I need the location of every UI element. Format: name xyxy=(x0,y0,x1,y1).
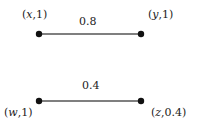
node-label-w: (w,1) xyxy=(4,107,33,119)
node-w xyxy=(36,98,42,104)
edge-weight-w-z: 0.4 xyxy=(82,80,100,92)
edge-weight-x-y: 0.8 xyxy=(79,16,97,28)
node-name-x: x xyxy=(26,8,32,21)
node-y xyxy=(138,31,144,37)
node-label-y: (y,1) xyxy=(148,9,173,21)
node-label-z: (z,0.4) xyxy=(151,107,186,119)
node-name-y: y xyxy=(152,8,158,21)
node-label-x: (x,1) xyxy=(22,9,47,21)
node-value-x: 1 xyxy=(36,8,43,21)
node-value-z: 0.4 xyxy=(165,106,183,119)
node-value-w: 1 xyxy=(21,106,28,119)
node-name-z: z xyxy=(155,106,161,119)
graph-diagram: (x,1) (y,1) 0.8 0.4 (w,1) (z,0.4) xyxy=(0,0,199,130)
node-x xyxy=(36,31,42,37)
node-value-y: 1 xyxy=(162,8,169,21)
node-name-w: w xyxy=(8,106,17,119)
node-z xyxy=(138,98,144,104)
